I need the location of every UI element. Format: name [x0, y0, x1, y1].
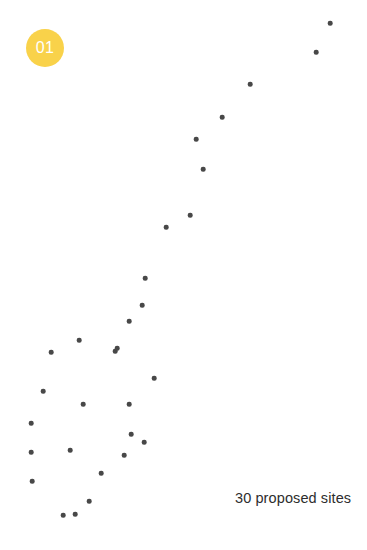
site-dot	[61, 513, 66, 518]
site-dot	[29, 421, 34, 426]
site-dot	[152, 376, 157, 381]
site-dot	[29, 450, 34, 455]
site-dot	[129, 432, 134, 437]
site-dot	[248, 82, 253, 87]
site-dot	[140, 303, 145, 308]
site-dot	[81, 402, 86, 407]
site-dot	[68, 448, 73, 453]
site-dot	[30, 479, 35, 484]
scatter-caption: 30 proposed sites	[235, 488, 355, 509]
site-dot	[194, 137, 199, 142]
site-dot	[41, 389, 46, 394]
site-dot	[127, 402, 132, 407]
site-dot	[127, 319, 132, 324]
site-dot	[143, 276, 148, 281]
site-dot	[328, 21, 333, 26]
site-dot	[115, 346, 120, 351]
proposed-sites-scatter-plot	[0, 0, 367, 550]
site-dot	[77, 338, 82, 343]
site-dot	[314, 50, 319, 55]
site-dot	[164, 225, 169, 230]
site-dot	[87, 499, 92, 504]
site-dot	[122, 453, 127, 458]
site-dot	[188, 213, 193, 218]
site-dot	[99, 471, 104, 476]
site-dot	[49, 350, 54, 355]
site-dot	[73, 512, 78, 517]
scatter-slide: 01 30 proposed sites	[0, 0, 367, 550]
site-dot	[142, 440, 147, 445]
site-dot	[201, 167, 206, 172]
site-dot	[220, 115, 225, 120]
